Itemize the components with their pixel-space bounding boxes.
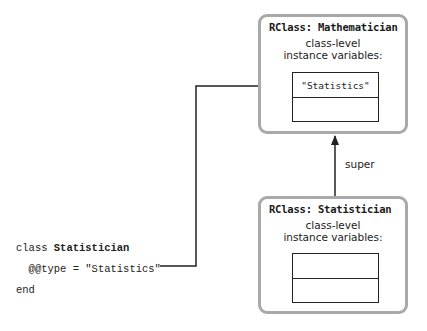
rclass-mathematician: RClass: Mathematician class-level instan… <box>258 14 408 134</box>
code-keyword: class <box>16 242 54 254</box>
rclass-title: RClass: Mathematician <box>269 21 398 33</box>
code-class-name: Statistician <box>54 242 130 254</box>
ivar-label: class-level instance variables: <box>261 219 405 243</box>
ivar-label-line1: class-level <box>261 219 405 231</box>
ivar-cell <box>293 254 378 278</box>
super-label: super <box>345 158 375 170</box>
rclass-statistician: RClass: Statistician class-level instanc… <box>258 196 408 314</box>
ivar-table <box>292 253 379 303</box>
rclass-title: RClass: Statistician <box>269 203 391 215</box>
ivar-cell <box>293 278 378 302</box>
code-line-2: @@type = "Statistics" <box>16 259 161 280</box>
ivar-table: "Statistics" <box>292 72 379 122</box>
clipped-caption <box>0 325 427 331</box>
ivar-cell <box>293 97 378 121</box>
code-line-3: end <box>16 280 161 301</box>
code-line-1: class Statistician <box>16 238 161 259</box>
ivar-label-line2: instance variables: <box>261 231 405 243</box>
ivar-cell: "Statistics" <box>293 73 378 97</box>
ivar-label: class-level instance variables: <box>261 37 405 61</box>
ivar-label-line1: class-level <box>261 37 405 49</box>
ivar-label-line2: instance variables: <box>261 49 405 61</box>
code-snippet: class Statistician @@type = "Statistics"… <box>16 238 161 301</box>
